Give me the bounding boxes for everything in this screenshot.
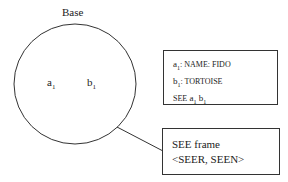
info-line-see: SEE a1 b1 bbox=[173, 92, 277, 109]
frame-title: SEE frame bbox=[172, 137, 279, 152]
info-box: a1: NAME: FIDO b1: TORTOISE SEE a1 b1 bbox=[163, 50, 278, 105]
base-label: Base bbox=[62, 6, 83, 18]
see-prefix: SEE bbox=[173, 94, 187, 103]
frame-box: SEE frame <SEER, SEEN> bbox=[162, 128, 280, 175]
base-space-circle bbox=[14, 24, 136, 144]
sub: 1 bbox=[203, 98, 206, 104]
info-text: : TORTOISE bbox=[181, 77, 223, 86]
info-line-b1: b1: TORTOISE bbox=[173, 75, 277, 92]
frame-roles: <SEER, SEEN> bbox=[172, 152, 279, 167]
connector-line bbox=[117, 127, 163, 151]
info-text: : NAME: FIDO bbox=[180, 60, 231, 69]
element-a1: a1 bbox=[47, 76, 55, 91]
info-line-a1: a1: NAME: FIDO bbox=[173, 58, 277, 75]
element-subscript: 1 bbox=[93, 83, 97, 91]
element-b1: b1 bbox=[87, 76, 96, 91]
sub: 1 bbox=[193, 98, 196, 104]
element-subscript: 1 bbox=[52, 83, 56, 91]
